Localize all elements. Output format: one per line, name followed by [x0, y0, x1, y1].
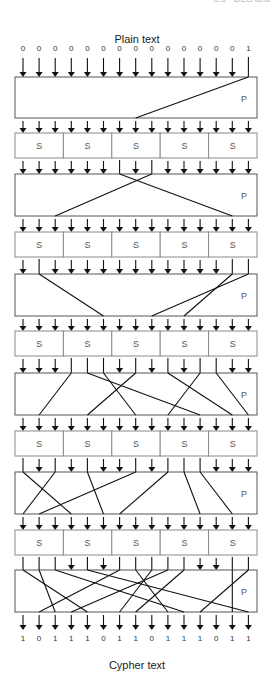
arrow-down-icon — [68, 467, 75, 472]
pbox-label: P — [241, 94, 247, 104]
arrow-down-icon — [132, 128, 139, 133]
plaintext-bit: 0 — [133, 44, 138, 53]
arrow-down-icon — [148, 227, 155, 232]
arrow-down-icon — [116, 525, 123, 530]
arrow-down-icon — [116, 269, 123, 274]
arrow-down-icon — [84, 525, 91, 530]
arrow-down-icon — [197, 169, 204, 174]
arrow-down-icon — [132, 227, 139, 232]
arrow-down-icon — [213, 525, 220, 530]
arrow-down-icon — [100, 565, 107, 570]
arrow-down-icon — [181, 128, 188, 133]
arrow-down-icon — [132, 426, 139, 431]
arrow-down-icon — [20, 227, 27, 232]
plaintext-bit: 0 — [150, 44, 155, 53]
plaintext-bit: 0 — [166, 44, 171, 53]
arrow-down-icon — [52, 326, 59, 331]
arrow-down-icon — [197, 525, 204, 530]
arrow-down-icon — [52, 227, 59, 232]
arrow-down-icon — [116, 326, 123, 331]
arrow-down-icon — [84, 227, 91, 232]
arrow-down-icon — [197, 625, 204, 630]
arrow-down-icon — [181, 227, 188, 232]
arrow-down-icon — [100, 169, 107, 174]
arrow-down-icon — [148, 426, 155, 431]
arrow-down-icon — [68, 525, 75, 530]
arrow-down-icon — [213, 426, 220, 431]
sbox-label: S — [181, 339, 187, 349]
arrow-down-icon — [245, 326, 252, 331]
arrow-down-icon — [20, 426, 27, 431]
cyphertext-bit: 0 — [214, 634, 219, 643]
arrow-down-icon — [164, 525, 171, 530]
arrow-down-icon — [68, 326, 75, 331]
arrow-down-icon — [197, 72, 204, 77]
arrow-down-icon — [213, 269, 220, 274]
plaintext-bit: 0 — [21, 44, 26, 53]
arrow-down-icon — [132, 269, 139, 274]
pbox-label: P — [241, 291, 247, 301]
sbox-label: S — [36, 538, 42, 548]
sbox-label: S — [133, 240, 139, 250]
sbox-label: S — [36, 141, 42, 151]
cyphertext-bit: 0 — [37, 634, 42, 643]
arrow-down-icon — [229, 227, 236, 232]
arrow-down-icon — [84, 326, 91, 331]
plaintext-bit: 0 — [182, 44, 187, 53]
plaintext-bit: 0 — [69, 44, 74, 53]
arrow-down-icon — [181, 269, 188, 274]
arrow-down-icon — [213, 467, 220, 472]
sbox-label: S — [181, 538, 187, 548]
arrow-down-icon — [164, 326, 171, 331]
sbox-label: S — [36, 240, 42, 250]
arrow-down-icon — [20, 368, 27, 373]
arrow-down-icon — [20, 128, 27, 133]
arrow-down-icon — [36, 72, 43, 77]
arrow-down-icon — [100, 269, 107, 274]
arrow-down-icon — [148, 72, 155, 77]
arrow-down-icon — [52, 525, 59, 530]
arrow-down-icon — [245, 426, 252, 431]
arrow-down-icon — [148, 368, 155, 373]
arrow-down-icon — [245, 525, 252, 530]
arrow-down-icon — [213, 227, 220, 232]
arrow-down-icon — [116, 128, 123, 133]
arrow-down-icon — [84, 169, 91, 174]
arrow-down-icon — [116, 467, 123, 472]
pbox-label: P — [241, 191, 247, 201]
arrow-down-icon — [213, 565, 220, 570]
arrow-down-icon — [245, 169, 252, 174]
sbox-label: S — [230, 141, 236, 151]
arrow-down-icon — [116, 426, 123, 431]
arrow-down-icon — [116, 625, 123, 630]
sbox-label: S — [230, 439, 236, 449]
sbox-label: S — [230, 339, 236, 349]
cyphertext-bit: 1 — [21, 634, 26, 643]
arrow-down-icon — [36, 467, 43, 472]
pbox-label: P — [241, 390, 247, 400]
arrow-down-icon — [100, 128, 107, 133]
arrow-down-icon — [52, 269, 59, 274]
arrow-down-icon — [164, 227, 171, 232]
arrow-down-icon — [20, 525, 27, 530]
arrow-down-icon — [213, 72, 220, 77]
sbox-label: S — [181, 439, 187, 449]
cyphertext-bit: 1 — [133, 634, 138, 643]
cyphertext-bit: 1 — [85, 634, 90, 643]
arrow-down-icon — [132, 625, 139, 630]
plaintext-bit: 0 — [230, 44, 235, 53]
arrow-down-icon — [20, 269, 27, 274]
arrow-down-icon — [20, 169, 27, 174]
arrow-down-icon — [229, 128, 236, 133]
arrow-down-icon — [197, 565, 204, 570]
arrow-down-icon — [100, 467, 107, 472]
arrow-down-icon — [52, 625, 59, 630]
arrow-down-icon — [36, 426, 43, 431]
arrow-down-icon — [164, 128, 171, 133]
arrow-down-icon — [36, 169, 43, 174]
arrow-down-icon — [36, 227, 43, 232]
sbox-label: S — [230, 240, 236, 250]
cyphertext-bit: 1 — [230, 634, 235, 643]
sbox-label: S — [85, 339, 91, 349]
sbox-label: S — [133, 141, 139, 151]
